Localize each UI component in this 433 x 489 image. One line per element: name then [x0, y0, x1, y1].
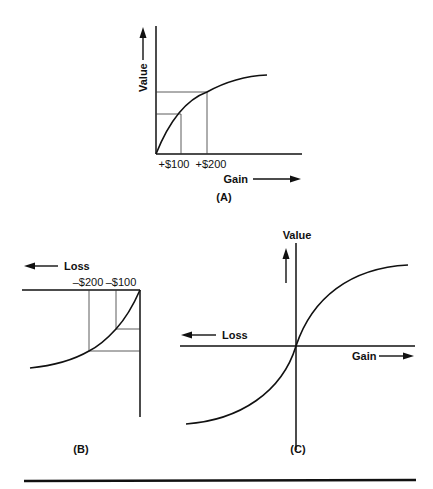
panel-a-tick-200: +$200 [196, 158, 227, 170]
panel-b-caption: (B) [73, 443, 89, 455]
panel-b-tick-200: –$200 [73, 276, 104, 288]
panel-c-value-curve [186, 265, 408, 424]
panel-c: Value Loss Gain (C) [180, 229, 415, 455]
arrow-up-head-icon [140, 27, 147, 38]
panel-b-x-label: Loss [64, 260, 90, 272]
panel-a-tick-100: +$100 [159, 158, 190, 170]
panel-a: Value +$100 +$200 Gain (A) [137, 26, 302, 203]
arrow-right-head-icon [290, 176, 301, 183]
panel-c-y-label: Value [283, 229, 312, 241]
panel-a-y-label: Value [137, 63, 149, 92]
arrow-right-head-icon [403, 353, 414, 360]
panel-a-caption: (A) [216, 191, 232, 203]
arrow-up-head-icon [283, 248, 290, 259]
panel-a-gain-curve [156, 75, 267, 154]
panel-b: Loss –$200 –$100 (B) [22, 260, 140, 455]
bottom-rule-divider [24, 480, 416, 481]
panel-c-caption: (C) [290, 443, 306, 455]
panel-a-x-label: Gain [224, 173, 249, 185]
value-function-diagram: Value +$100 +$200 Gain (A) Loss –$200 –$… [0, 0, 433, 489]
panel-c-gain-label: Gain [352, 350, 377, 362]
panel-b-tick-100: –$100 [106, 276, 137, 288]
panel-c-loss-label: Loss [222, 329, 248, 341]
